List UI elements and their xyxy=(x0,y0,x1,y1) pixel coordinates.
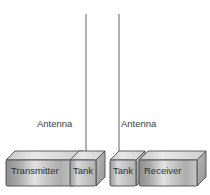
box-label-receiver: Receiver xyxy=(144,166,182,176)
diagram-canvas: Antenna Antenna Transmitter Tank Tank Re… xyxy=(0,0,210,195)
box-label-transmitter: Transmitter xyxy=(11,166,59,176)
antenna-label-right: Antenna xyxy=(121,119,156,129)
box-label-tank-left: Tank xyxy=(73,166,93,176)
receiver-top-face xyxy=(139,151,206,160)
antenna-label-left: Antenna xyxy=(37,119,72,129)
box-label-tank-right: Tank xyxy=(113,166,133,176)
